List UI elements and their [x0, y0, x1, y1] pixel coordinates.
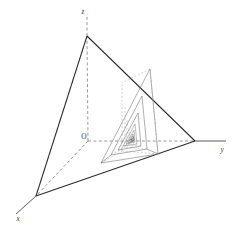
nested-tetrahedron-level-2	[111, 96, 147, 155]
tetrahedra-diagram: z y x O	[0, 0, 232, 227]
nested-tetrahedron-level-3	[118, 113, 141, 150]
hull-edge-z-to-y	[87, 36, 195, 141]
nest4-edge-right	[135, 124, 137, 144]
projection-lines-group	[101, 69, 158, 163]
hull-edge-x-to-y	[36, 141, 195, 196]
nest5-edge-right	[134, 130, 135, 142]
z-axis-label: z	[81, 8, 85, 16]
x-axis-dashed-segment	[36, 141, 88, 196]
outer-tetrahedron	[36, 36, 195, 196]
hull-edge-z-to-x	[36, 36, 87, 196]
nest1-edge-hidden-c	[122, 69, 150, 83]
nested-tetrahedron-level-1	[101, 69, 158, 163]
z-axis-dashed-segment	[87, 36, 88, 141]
nest2-edge-left	[111, 96, 142, 155]
figure-container: z y x O	[0, 0, 232, 227]
x-axis-label: x	[15, 215, 20, 223]
axes-group	[16, 14, 226, 214]
y-axis-label: y	[219, 146, 224, 154]
origin-label: O	[81, 132, 87, 141]
nest1-edge-base	[101, 154, 158, 163]
nest2-edge-base	[111, 149, 147, 155]
x-axis-solid-segment	[16, 196, 36, 214]
